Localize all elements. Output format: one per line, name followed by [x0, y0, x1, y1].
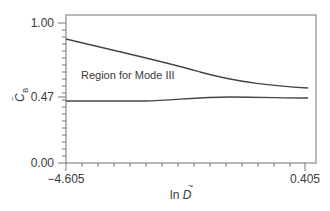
x-tick-label-min: −4.605: [47, 172, 84, 186]
y-tick-label-bottom: 0.00: [31, 156, 55, 170]
y-tick-label-top: 1.00: [31, 16, 55, 30]
region-annotation: Region for Mode III: [81, 69, 175, 81]
x-tick-label-max: 0.405: [290, 172, 320, 186]
tilde-mark: ~: [8, 96, 17, 101]
x-axis-ticks: [66, 163, 305, 171]
y-tick-label-mid: 0.47: [31, 90, 55, 104]
x-axis-label: ln D ~: [170, 181, 193, 202]
y-axis-label-sub: B: [21, 88, 30, 93]
chart: 1.00 0.47 0.00 −4.605 0.405 ln D ~ C B ~…: [0, 0, 330, 211]
y-axis-ticks: [58, 23, 66, 163]
y-axis-label: C B ~: [8, 88, 30, 102]
plot-frame: [66, 15, 316, 163]
x-axis-label-prefix: ln: [170, 188, 183, 202]
tilde-mark: ~: [188, 181, 193, 191]
lower-boundary-curve: [66, 97, 308, 101]
